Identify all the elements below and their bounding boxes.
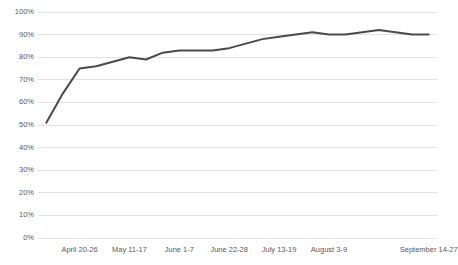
- x-axis-tick-label: April 20-26: [61, 245, 97, 254]
- x-axis: April 20-26May 11-17June 1-7June 22-28Ju…: [0, 245, 443, 261]
- x-axis-tick-label: May 11-17: [112, 245, 147, 254]
- data-line: [46, 30, 428, 123]
- x-axis-tick-label: June 22-28: [210, 245, 248, 254]
- x-axis-tick-label: September 14-27: [400, 245, 458, 254]
- x-axis-tick-label: August 3-9: [311, 245, 347, 254]
- data-series-group: [46, 30, 428, 123]
- x-axis-tick-label: July 13-19: [262, 245, 297, 254]
- x-axis-tick-label: June 1-7: [165, 245, 194, 254]
